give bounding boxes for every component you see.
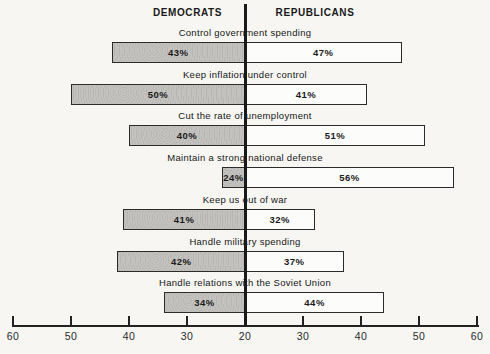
dem-bar: 41% — [123, 209, 245, 230]
rep-bar: 37% — [245, 251, 344, 272]
dem-value: 43% — [168, 47, 189, 58]
axis-tick — [128, 316, 130, 325]
rep-bar: 41% — [245, 84, 367, 105]
rep-bar: 56% — [245, 167, 454, 188]
dem-value: 41% — [174, 214, 195, 225]
center-divider-line — [244, 4, 247, 327]
axis-tick-label: 40 — [123, 330, 135, 342]
dem-value: 34% — [194, 297, 215, 308]
dem-value: 40% — [177, 130, 198, 141]
dem-bar: 42% — [117, 251, 245, 272]
rep-value: 37% — [284, 256, 305, 267]
axis-tick-label: 50 — [413, 330, 425, 342]
axis-tick-label: 50 — [65, 330, 77, 342]
dem-bar: 24% — [222, 167, 245, 188]
axis-tick — [70, 316, 72, 325]
left-column-header: DEMOCRATS — [153, 7, 222, 18]
axis-tick — [360, 316, 362, 325]
dem-bar: 40% — [129, 125, 245, 146]
dem-bar: 43% — [112, 42, 245, 63]
rep-value: 51% — [325, 130, 346, 141]
axis-tick-label: 40 — [355, 330, 367, 342]
rep-value: 47% — [313, 47, 334, 58]
dem-bar: 34% — [164, 292, 245, 313]
dem-value: 42% — [171, 256, 192, 267]
chart-area: DEMOCRATS REPUBLICANS Control government… — [0, 0, 490, 354]
rep-value: 32% — [270, 214, 291, 225]
rep-bar: 44% — [245, 292, 384, 313]
rep-bar: 32% — [245, 209, 315, 230]
rep-bar: 51% — [245, 125, 425, 146]
axis-tick — [418, 316, 420, 325]
axis-tick — [476, 316, 478, 325]
axis-tick-label: 60 — [471, 330, 483, 342]
axis-tick-label: 30 — [297, 330, 309, 342]
dem-value: 24% — [223, 172, 244, 183]
right-column-header: REPUBLICANS — [276, 7, 355, 18]
center-axis-label: 20 — [239, 330, 251, 342]
axis-tick — [302, 316, 304, 325]
dem-bar: 50% — [71, 84, 245, 105]
axis-tick-label: 60 — [7, 330, 19, 342]
dem-value: 50% — [148, 89, 169, 100]
rep-value: 56% — [339, 172, 360, 183]
rep-bar: 47% — [245, 42, 402, 63]
rep-value: 44% — [304, 297, 325, 308]
rep-value: 41% — [296, 89, 317, 100]
axis-tick-label: 30 — [181, 330, 193, 342]
axis-tick — [186, 316, 188, 325]
axis-tick — [12, 316, 14, 325]
